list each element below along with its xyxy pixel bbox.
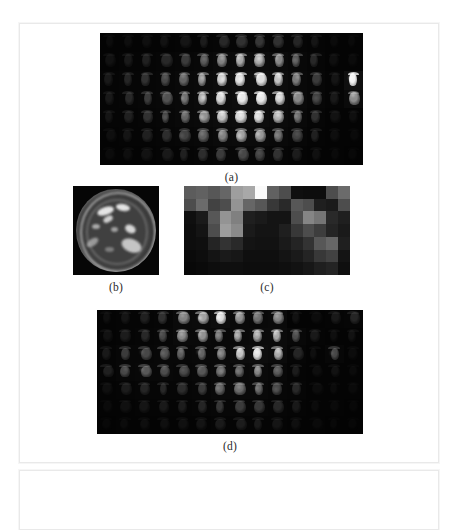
thumbnail-tile bbox=[232, 33, 251, 52]
thumbnail-tile bbox=[344, 127, 363, 146]
thumbnail-tile bbox=[325, 90, 344, 109]
thumbnail-tile bbox=[211, 416, 230, 434]
mosaic-cell bbox=[326, 199, 338, 212]
thumbnail-tile bbox=[119, 146, 138, 165]
thumbnail-tile bbox=[192, 345, 211, 363]
thumbnail-tile bbox=[307, 33, 326, 52]
thumbnail-tile bbox=[138, 146, 157, 165]
mosaic-cell bbox=[184, 262, 196, 275]
thumbnail-tile bbox=[325, 416, 344, 434]
thumbnail-tile bbox=[156, 90, 175, 109]
mosaic-cell bbox=[208, 199, 220, 212]
thumbnail-tile bbox=[288, 127, 307, 146]
mosaic-cell bbox=[303, 237, 315, 250]
thumbnail-tile bbox=[250, 108, 269, 127]
thumbnail-tile bbox=[116, 310, 135, 328]
thumbnail-tile bbox=[156, 146, 175, 165]
mosaic-cell bbox=[303, 199, 315, 212]
pixel-mosaic-c bbox=[184, 186, 350, 275]
mosaic-cell bbox=[231, 250, 243, 263]
thumbnail-tile bbox=[268, 381, 287, 399]
mosaic-cell bbox=[231, 211, 243, 224]
thumbnail-tile bbox=[307, 71, 326, 90]
thumbnail-tile bbox=[269, 90, 288, 109]
mosaic-cell bbox=[255, 224, 267, 237]
mosaic-cell bbox=[208, 186, 220, 199]
mosaic-cell bbox=[338, 211, 350, 224]
thumbnail-tile bbox=[306, 381, 325, 399]
mosaic-cell bbox=[267, 224, 279, 237]
thumbnail-tile bbox=[269, 52, 288, 71]
mosaic-cell bbox=[243, 262, 255, 275]
thumbnail-tile bbox=[138, 127, 157, 146]
mosaic-cell bbox=[267, 211, 279, 224]
mosaic-cell bbox=[255, 211, 267, 224]
thumbnail-tile bbox=[173, 399, 192, 417]
mosaic-cell bbox=[338, 262, 350, 275]
thumbnail-tile bbox=[119, 108, 138, 127]
mosaic-cell bbox=[338, 224, 350, 237]
thumbnail-tile bbox=[287, 345, 306, 363]
thumbnail-tile bbox=[249, 345, 268, 363]
thumbnail-tile bbox=[269, 71, 288, 90]
thumbnail-tile bbox=[211, 310, 230, 328]
mosaic-cell bbox=[255, 186, 267, 199]
mosaic-cell bbox=[291, 250, 303, 263]
thumbnail-tile bbox=[119, 90, 138, 109]
thumbnail-tile bbox=[307, 108, 326, 127]
thumbnail-tile bbox=[249, 328, 268, 346]
thumbnail-tile bbox=[269, 146, 288, 165]
mosaic-cell bbox=[196, 250, 208, 263]
mosaic-cell bbox=[220, 262, 232, 275]
thumbnail-tile bbox=[306, 363, 325, 381]
mosaic-cell bbox=[326, 224, 338, 237]
mosaic-cell bbox=[231, 262, 243, 275]
thumbnail-tile bbox=[230, 363, 249, 381]
thumbnail-tile bbox=[194, 33, 213, 52]
thumbnail-tile bbox=[116, 399, 135, 417]
thumbnail-tile bbox=[211, 399, 230, 417]
mosaic-cell bbox=[314, 237, 326, 250]
mosaic-cell bbox=[184, 250, 196, 263]
thumbnail-tile bbox=[156, 71, 175, 90]
thumbnail-tile bbox=[100, 71, 119, 90]
mosaic-cell bbox=[231, 186, 243, 199]
thumbnail-tile bbox=[135, 345, 154, 363]
face-thumbnail-grid-d bbox=[97, 310, 363, 434]
thumbnail-tile bbox=[306, 310, 325, 328]
face-thumbnail-grid-a bbox=[100, 33, 363, 165]
thumbnail-tile bbox=[154, 363, 173, 381]
thumbnail-tile bbox=[173, 381, 192, 399]
mosaic-cell bbox=[279, 224, 291, 237]
thumbnail-tile bbox=[116, 416, 135, 434]
thumbnail-tile bbox=[269, 33, 288, 52]
thumbnail-tile bbox=[344, 108, 363, 127]
thumbnail-tile bbox=[268, 345, 287, 363]
thumbnail-tile bbox=[175, 52, 194, 71]
thumbnail-tile bbox=[230, 310, 249, 328]
thumbnail-tile bbox=[100, 127, 119, 146]
mosaic-cell bbox=[231, 224, 243, 237]
mosaic-cell bbox=[184, 186, 196, 199]
mosaic-cell bbox=[314, 199, 326, 212]
thumbnail-tile bbox=[97, 328, 116, 346]
mosaic-cell bbox=[220, 237, 232, 250]
thumbnail-tile bbox=[97, 381, 116, 399]
thumbnail-tile bbox=[119, 52, 138, 71]
thumbnail-tile bbox=[344, 310, 363, 328]
thumbnail-tile bbox=[97, 363, 116, 381]
thumbnail-tile bbox=[138, 33, 157, 52]
mosaic-cell bbox=[279, 199, 291, 212]
thumbnail-tile bbox=[288, 146, 307, 165]
thumbnail-tile bbox=[173, 345, 192, 363]
thumbnail-tile bbox=[119, 71, 138, 90]
thumbnail-tile bbox=[156, 127, 175, 146]
mosaic-cell bbox=[255, 262, 267, 275]
panel-d-image bbox=[97, 310, 363, 434]
mosaic-cell bbox=[220, 250, 232, 263]
mosaic-cell bbox=[291, 211, 303, 224]
panel-c-image bbox=[184, 186, 350, 275]
thumbnail-tile bbox=[249, 381, 268, 399]
mosaic-cell bbox=[184, 224, 196, 237]
thumbnail-tile bbox=[287, 416, 306, 434]
